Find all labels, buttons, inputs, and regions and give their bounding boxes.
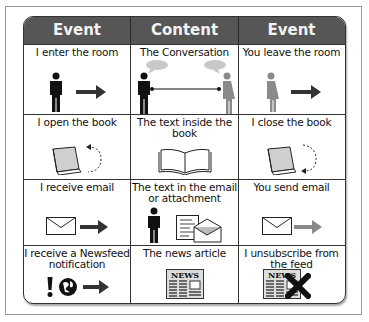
man-icon bbox=[48, 72, 64, 112]
table-row: I receive email The text in the email or… bbox=[24, 179, 345, 245]
cell-label: You send email bbox=[239, 182, 344, 193]
cell-label: The text inside the book bbox=[131, 117, 238, 139]
svg-text:NEWS: NEWS bbox=[170, 270, 198, 280]
event-content-table: Event Content Event I enter the room The… bbox=[23, 16, 346, 304]
newspaper-icon: NEWS bbox=[166, 269, 204, 299]
cell-close-book: I close the book bbox=[239, 115, 344, 179]
conversation-illustration bbox=[131, 59, 239, 115]
cell-label: I open the book bbox=[24, 117, 130, 128]
cell-label: I enter the room bbox=[24, 47, 130, 58]
cell-leave-room: You leave the room bbox=[239, 45, 344, 114]
cell-open-book: I open the book bbox=[24, 115, 131, 179]
header-event-right: Event bbox=[239, 17, 344, 44]
document-icon bbox=[176, 215, 224, 243]
cell-label: The text in the email or attachment bbox=[131, 182, 238, 204]
woman-icon bbox=[223, 73, 235, 116]
globe-icon bbox=[58, 277, 78, 297]
cell-label: I close the book bbox=[239, 117, 344, 128]
table-row: I enter the room The Conversation You le… bbox=[24, 44, 345, 114]
man-icon bbox=[138, 73, 150, 116]
exclamation-icon bbox=[46, 277, 54, 297]
table-header: Event Content Event bbox=[24, 17, 345, 44]
arrow-right-icon bbox=[291, 82, 321, 102]
man-icon bbox=[146, 207, 162, 243]
envelope-icon bbox=[262, 217, 292, 235]
cell-label: The Conversation bbox=[131, 47, 238, 58]
speech-bubble-icon bbox=[146, 60, 168, 74]
header-content: Content bbox=[131, 17, 239, 44]
cell-label: I unsubscribe from the feed bbox=[239, 248, 344, 270]
cell-label: I receive email bbox=[24, 182, 130, 193]
cell-enter-room: I enter the room bbox=[24, 45, 131, 114]
cell-label: The news article bbox=[131, 248, 238, 259]
closed-book-icon bbox=[51, 145, 83, 175]
table-row: I open the book The text inside the book… bbox=[24, 114, 345, 179]
woman-icon bbox=[263, 72, 279, 112]
table-row: I receive a Newsfeed notification The ne… bbox=[24, 245, 345, 304]
dashed-curved-arrow-icon bbox=[300, 143, 318, 175]
closed-book-icon bbox=[266, 145, 298, 175]
arrow-right-icon bbox=[294, 219, 322, 235]
x-mark-icon bbox=[285, 273, 311, 299]
cell-newsfeed-notification: I receive a Newsfeed notification bbox=[24, 246, 131, 304]
arrow-right-icon bbox=[83, 280, 109, 294]
cell-receive-email: I receive email bbox=[24, 180, 131, 245]
header-event-left: Event bbox=[24, 17, 131, 44]
speech-bubble-icon bbox=[204, 60, 226, 74]
dashed-curved-arrow-icon bbox=[85, 143, 103, 175]
cell-conversation: The Conversation bbox=[131, 45, 239, 114]
cell-label: You leave the room bbox=[239, 47, 344, 58]
cell-book-text: The text inside the book bbox=[131, 115, 239, 179]
arrow-right-icon bbox=[76, 82, 106, 102]
cell-unsubscribe: I unsubscribe from the feed NEWS bbox=[239, 246, 344, 304]
cell-label: I receive a Newsfeed notification bbox=[24, 248, 130, 270]
cell-send-email: You send email bbox=[239, 180, 344, 245]
connector-line-icon bbox=[150, 87, 221, 91]
open-book-icon bbox=[158, 147, 212, 175]
cell-email-text: The text in the email or attachment bbox=[131, 180, 239, 245]
cell-news-article: The news article NEWS bbox=[131, 246, 239, 304]
envelope-icon bbox=[46, 217, 76, 235]
arrow-right-icon bbox=[80, 219, 108, 235]
